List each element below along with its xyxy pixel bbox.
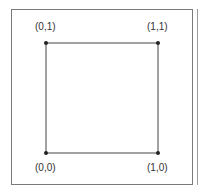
vertex-dot-0-0 bbox=[44, 151, 48, 155]
vertex-dot-1-0 bbox=[156, 151, 160, 155]
vertex-label-1-1: (1,1) bbox=[147, 22, 168, 32]
vertex-label-1-0: (1,0) bbox=[147, 163, 168, 173]
vertex-dot-0-1 bbox=[44, 41, 48, 45]
vertex-dot-1-1 bbox=[156, 41, 160, 45]
square-outline bbox=[46, 43, 158, 153]
unit-square-diagram bbox=[0, 0, 203, 193]
vertex-label-0-1: (0,1) bbox=[35, 22, 56, 32]
vertex-label-0-0: (0,0) bbox=[35, 163, 56, 173]
